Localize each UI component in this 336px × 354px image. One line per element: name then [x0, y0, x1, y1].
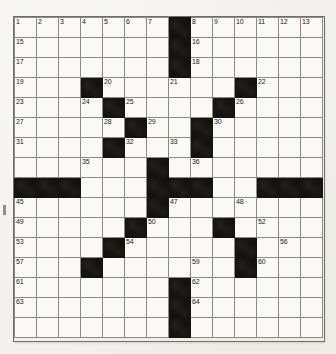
crossword-cell[interactable] [301, 38, 323, 58]
crossword-grid[interactable]: 1234567891011121315161718192021222324252… [14, 17, 323, 338]
crossword-cell[interactable] [125, 78, 147, 98]
crossword-cell[interactable] [235, 278, 257, 298]
crossword-cell[interactable] [59, 278, 81, 298]
crossword-cell[interactable] [81, 58, 103, 78]
crossword-cell[interactable] [81, 178, 103, 198]
crossword-cell[interactable] [103, 278, 125, 298]
crossword-cell[interactable] [191, 78, 213, 98]
crossword-cell[interactable] [169, 118, 191, 138]
crossword-cell[interactable] [279, 138, 301, 158]
crossword-cell[interactable] [59, 238, 81, 258]
crossword-cell[interactable] [257, 238, 279, 258]
crossword-cell[interactable] [37, 38, 59, 58]
crossword-cell[interactable] [213, 158, 235, 178]
crossword-cell[interactable] [213, 58, 235, 78]
crossword-cell[interactable]: 21 [169, 78, 191, 98]
crossword-cell[interactable]: 57 [15, 258, 37, 278]
crossword-cell[interactable] [103, 318, 125, 338]
crossword-cell[interactable] [235, 158, 257, 178]
crossword-cell[interactable] [147, 278, 169, 298]
crossword-cell[interactable] [103, 178, 125, 198]
crossword-cell[interactable]: 3 [59, 18, 81, 38]
crossword-cell[interactable] [81, 138, 103, 158]
crossword-cell[interactable] [213, 298, 235, 318]
crossword-cell[interactable] [191, 98, 213, 118]
crossword-cell[interactable]: 22 [257, 78, 279, 98]
crossword-cell[interactable] [235, 298, 257, 318]
crossword-cell[interactable] [169, 158, 191, 178]
crossword-cell[interactable] [103, 298, 125, 318]
crossword-cell[interactable]: 53 [15, 238, 37, 258]
crossword-cell[interactable] [257, 138, 279, 158]
crossword-cell[interactable] [279, 318, 301, 338]
crossword-cell[interactable] [37, 118, 59, 138]
crossword-cell[interactable] [301, 158, 323, 178]
crossword-cell[interactable] [213, 238, 235, 258]
crossword-cell[interactable] [59, 198, 81, 218]
crossword-cell[interactable] [147, 138, 169, 158]
crossword-cell[interactable] [279, 158, 301, 178]
crossword-cell[interactable]: 26 [235, 98, 257, 118]
crossword-cell[interactable]: 9 [213, 18, 235, 38]
crossword-cell[interactable]: 18 [191, 58, 213, 78]
crossword-cell[interactable] [257, 158, 279, 178]
crossword-cell[interactable] [81, 298, 103, 318]
crossword-cell[interactable]: 12 [279, 18, 301, 38]
crossword-cell[interactable] [213, 198, 235, 218]
crossword-cell[interactable] [125, 58, 147, 78]
crossword-cell[interactable] [81, 278, 103, 298]
crossword-cell[interactable]: 19 [15, 78, 37, 98]
crossword-cell[interactable] [147, 38, 169, 58]
crossword-cell[interactable] [235, 118, 257, 138]
crossword-cell[interactable]: 10 [235, 18, 257, 38]
crossword-cell[interactable]: 28 [103, 118, 125, 138]
crossword-cell[interactable] [257, 38, 279, 58]
crossword-cell[interactable] [257, 198, 279, 218]
crossword-cell[interactable] [59, 298, 81, 318]
crossword-cell[interactable] [59, 218, 81, 238]
crossword-cell[interactable] [15, 158, 37, 178]
crossword-cell[interactable]: 59 [191, 258, 213, 278]
crossword-cell[interactable] [103, 38, 125, 58]
crossword-cell[interactable] [125, 178, 147, 198]
crossword-cell[interactable] [37, 138, 59, 158]
crossword-cell[interactable] [191, 318, 213, 338]
crossword-cell[interactable] [81, 118, 103, 138]
crossword-cell[interactable] [125, 258, 147, 278]
crossword-cell[interactable] [147, 318, 169, 338]
crossword-cell[interactable] [213, 278, 235, 298]
crossword-cell[interactable]: 35 [81, 158, 103, 178]
crossword-cell[interactable]: 1 [15, 18, 37, 38]
crossword-cell[interactable] [37, 258, 59, 278]
crossword-cell[interactable] [59, 158, 81, 178]
crossword-cell[interactable] [213, 258, 235, 278]
crossword-cell[interactable] [213, 138, 235, 158]
crossword-cell[interactable] [301, 78, 323, 98]
crossword-cell[interactable] [59, 138, 81, 158]
crossword-cell[interactable] [59, 78, 81, 98]
crossword-cell[interactable]: 25 [125, 98, 147, 118]
crossword-cell[interactable]: 45 [15, 198, 37, 218]
crossword-cell[interactable] [213, 38, 235, 58]
crossword-cell[interactable]: 54 [125, 238, 147, 258]
crossword-cell[interactable]: 8 [191, 18, 213, 38]
crossword-cell[interactable] [59, 98, 81, 118]
crossword-cell[interactable] [235, 138, 257, 158]
crossword-cell[interactable] [257, 118, 279, 138]
crossword-cell[interactable]: 52 [257, 218, 279, 238]
crossword-cell[interactable] [301, 318, 323, 338]
crossword-cell[interactable] [301, 258, 323, 278]
crossword-cell[interactable] [301, 58, 323, 78]
crossword-cell[interactable]: 64 [191, 298, 213, 318]
crossword-cell[interactable] [191, 238, 213, 258]
crossword-cell[interactable] [213, 178, 235, 198]
crossword-cell[interactable] [169, 98, 191, 118]
crossword-cell[interactable] [81, 218, 103, 238]
crossword-cell[interactable] [125, 38, 147, 58]
crossword-cell[interactable]: 48 [235, 198, 257, 218]
crossword-cell[interactable]: 15 [15, 38, 37, 58]
crossword-cell[interactable] [301, 298, 323, 318]
crossword-cell[interactable]: 36 [191, 158, 213, 178]
crossword-cell[interactable] [191, 198, 213, 218]
crossword-cell[interactable] [125, 298, 147, 318]
